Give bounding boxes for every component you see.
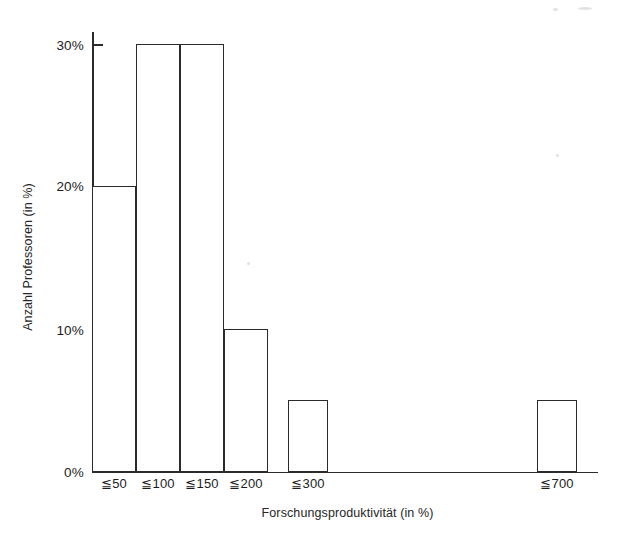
y-tick-label-10: 10% <box>28 323 84 338</box>
bar-le-700 <box>537 400 577 472</box>
bar-le-50 <box>92 186 136 472</box>
bar-le-150 <box>180 44 224 472</box>
bar-le-300 <box>288 400 328 472</box>
y-tick-label-30: 30% <box>28 38 84 53</box>
x-tick-label-le-200: ≦200 <box>224 476 268 491</box>
x-tick-label-le-700: ≦700 <box>537 476 577 491</box>
y-tick-mark-30 <box>93 44 103 46</box>
bar-le-200 <box>224 329 268 472</box>
scan-artifact <box>553 8 558 11</box>
scan-artifact <box>556 154 559 157</box>
scan-artifact <box>247 262 250 265</box>
y-tick-label-20: 20% <box>28 179 84 194</box>
x-tick-label-le-50: ≦50 <box>92 476 136 491</box>
x-tick-label-le-150: ≦150 <box>180 476 224 491</box>
scan-artifact <box>578 7 592 10</box>
x-axis-title: Forschungsproduktivität (in %) <box>0 506 637 520</box>
bar-le-100 <box>136 44 180 472</box>
x-tick-label-le-300: ≦300 <box>288 476 328 491</box>
histogram-figure: Anzahl Professoren (in %) 30% 20% 10% 0%… <box>0 0 637 541</box>
x-tick-label-le-100: ≦100 <box>136 476 180 491</box>
y-tick-label-0: 0% <box>28 465 84 480</box>
y-axis-title: Anzahl Professoren (in %) <box>21 167 35 347</box>
